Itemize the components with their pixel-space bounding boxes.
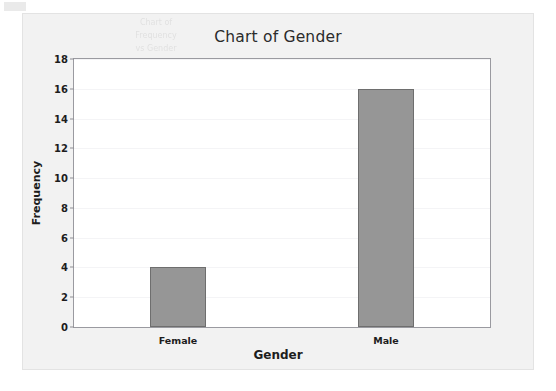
y-tick-mark (70, 237, 74, 238)
chart-figure-panel: Chart ofFrequencyvs Gender Chart of Gend… (22, 13, 534, 370)
y-tick-label: 2 (61, 292, 68, 303)
gridline (74, 208, 490, 209)
y-tick-label: 6 (61, 232, 68, 243)
chart-title: Chart of Gender (23, 28, 533, 46)
y-tick-mark (70, 207, 74, 208)
y-tick-label: 18 (54, 54, 68, 65)
y-tick-mark (70, 297, 74, 298)
y-tick-mark (70, 118, 74, 119)
gridline (74, 148, 490, 149)
gridline (74, 59, 490, 60)
y-tick-label: 0 (61, 322, 68, 333)
y-tick-mark (70, 327, 74, 328)
x-axis-title: Gender (23, 348, 533, 362)
y-axis-title: Frequency (30, 161, 43, 225)
gridline (74, 89, 490, 90)
gridline (74, 267, 490, 268)
gridline (74, 297, 490, 298)
plot-area: 024681012141618FemaleMale (73, 58, 491, 328)
y-tick-mark (70, 178, 74, 179)
scan-artifact (4, 2, 26, 11)
y-tick-label: 8 (61, 202, 68, 213)
bar-female[interactable] (150, 267, 206, 327)
gridline (74, 178, 490, 179)
x-tick-label-female: Female (159, 335, 198, 346)
y-tick-label: 4 (61, 262, 68, 273)
gridline (74, 119, 490, 120)
y-tick-mark (70, 267, 74, 268)
y-tick-mark (70, 88, 74, 89)
x-tick-label-male: Male (373, 335, 399, 346)
y-tick-mark (70, 148, 74, 149)
y-tick-label: 16 (54, 83, 68, 94)
bar-male[interactable] (358, 89, 414, 327)
y-tick-label: 12 (54, 143, 68, 154)
gridline (74, 238, 490, 239)
y-tick-label: 10 (54, 173, 68, 184)
y-tick-label: 14 (54, 113, 68, 124)
y-tick-mark (70, 59, 74, 60)
